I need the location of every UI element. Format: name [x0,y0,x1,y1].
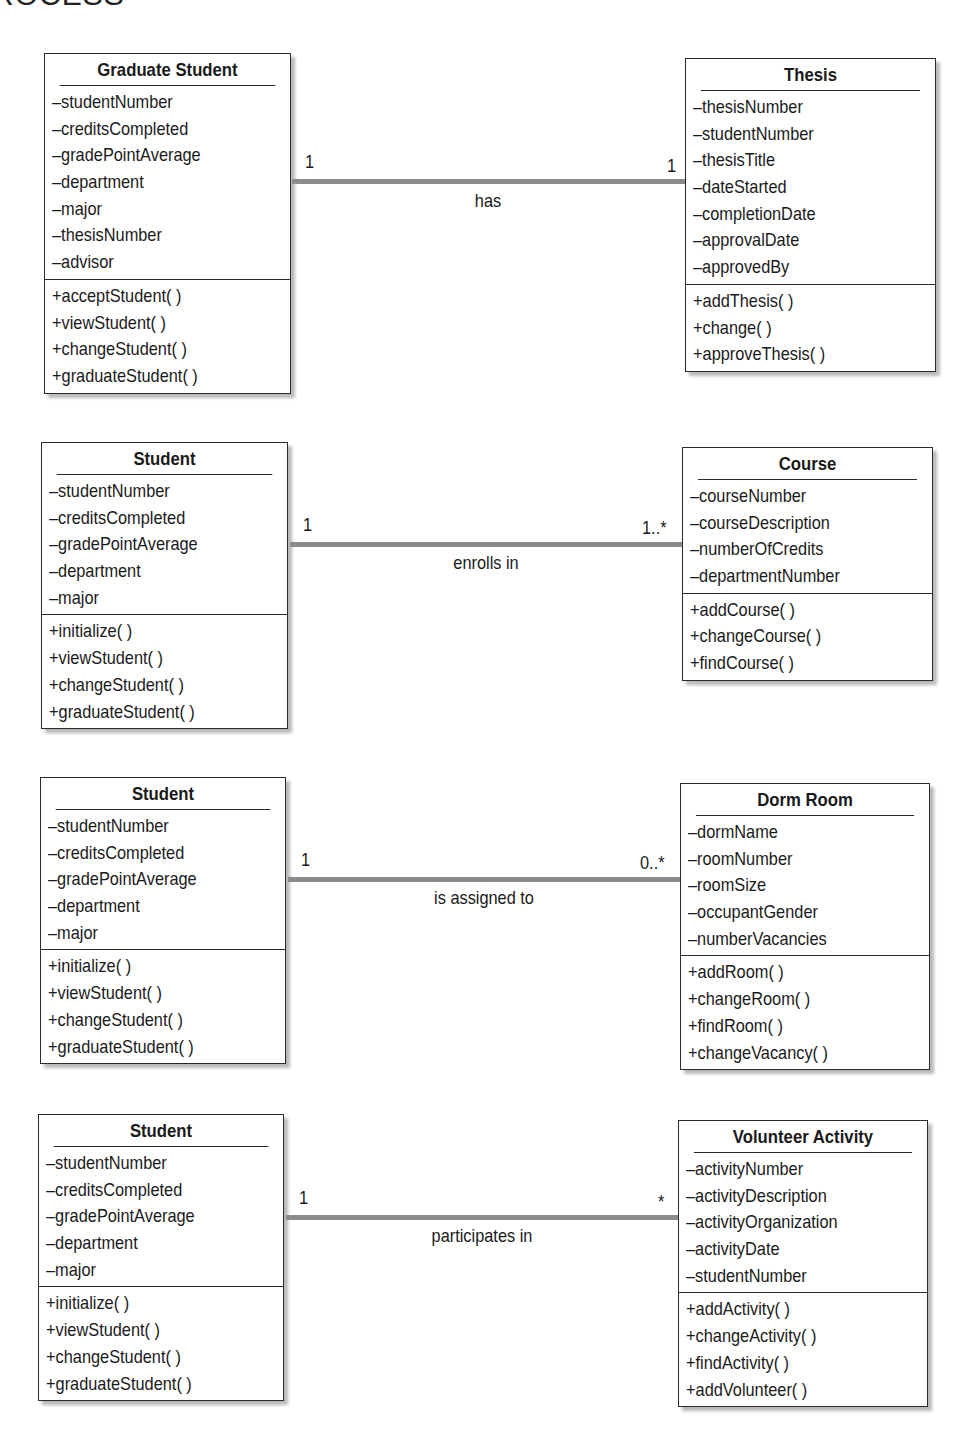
class-name: Course [698,448,917,480]
method: +viewStudent( ) [52,310,257,337]
methods-section: +initialize( ) +viewStudent( ) +changeSt… [41,950,285,1063]
class-student: Student –studentNumber –creditsCompleted… [38,1114,284,1401]
method: +graduateStudent( ) [48,1034,252,1061]
left-multiplicity: 1 [299,1187,308,1209]
attributes-section: –dormName –roomNumber –roomSize –occupan… [681,816,929,956]
attribute: –courseNumber [690,483,898,510]
attributes-section: –thesisNumber –studentNumber –thesisTitl… [686,91,935,285]
class-dorm-room: Dorm Room –dormName –roomNumber –roomSiz… [680,783,930,1070]
attribute: –courseDescription [690,510,898,537]
method: +changeStudent( ) [52,336,257,363]
attribute: –occupantGender [688,899,895,926]
association-label: participates in [396,1225,568,1247]
association-label: is assigned to [398,887,570,909]
attribute: –studentNumber [49,478,254,505]
attribute: –thesisNumber [52,222,257,249]
class-volunteer-activity: Volunteer Activity –activityNumber –acti… [678,1120,928,1407]
attribute: –department [48,893,252,920]
attribute: –activityDescription [686,1183,893,1210]
attributes-section: –activityNumber –activityDescription –ac… [679,1153,927,1293]
method: +changeStudent( ) [48,1007,252,1034]
attribute: –department [49,558,254,585]
attribute: –dateStarted [693,174,901,201]
right-multiplicity: 1..* [642,517,667,539]
attribute: –creditsCompleted [48,840,252,867]
method: +graduateStudent( ) [52,363,257,390]
class-graduate-student: Graduate Student –studentNumber –credits… [44,53,291,394]
attribute: –major [49,585,254,612]
attribute: –activityDate [686,1236,893,1263]
method: +viewStudent( ) [46,1317,250,1344]
attribute: –numberOfCredits [690,536,898,563]
method: +changeRoom( ) [688,986,895,1013]
attribute: –studentNumber [46,1150,250,1177]
attribute: –major [48,920,252,947]
attributes-section: –studentNumber –creditsCompleted –gradeP… [41,810,285,950]
attribute: –roomSize [688,872,895,899]
method: +changeStudent( ) [46,1344,250,1371]
class-name: Dorm Room [696,784,914,816]
method: +initialize( ) [49,618,254,645]
attribute: –department [52,169,257,196]
class-course: Course –courseNumber –courseDescription … [682,447,933,681]
attribute: –gradePointAverage [49,531,254,558]
class-name: Thesis [701,59,920,91]
attribute: –major [52,196,257,223]
right-multiplicity: 0..* [640,852,665,874]
method: +viewStudent( ) [49,645,254,672]
attribute: –studentNumber [48,813,252,840]
attribute: –approvalDate [693,227,901,254]
method: +findRoom( ) [688,1013,895,1040]
attribute: –numberVacancies [688,926,895,953]
association-label: has [402,190,574,212]
attribute: –thesisTitle [693,147,901,174]
attribute: –advisor [52,249,257,276]
class-name: Student [56,778,271,810]
attribute: –completionDate [693,201,901,228]
class-student: Student –studentNumber –creditsCompleted… [40,777,286,1064]
attribute: –roomNumber [688,846,895,873]
attribute: –approvedBy [693,254,901,281]
left-multiplicity: 1 [301,849,310,871]
right-multiplicity: 1 [667,155,676,177]
association-line-has [292,179,685,184]
association-line-is-assigned-to [288,877,681,882]
method: +changeVacancy( ) [688,1040,895,1067]
method: +viewStudent( ) [48,980,252,1007]
class-name: Graduate Student [60,54,276,86]
attribute: –creditsCompleted [52,116,257,143]
methods-section: +addRoom( ) +changeRoom( ) +findRoom( ) … [681,956,929,1069]
attribute: –activityOrganization [686,1209,893,1236]
attribute: –studentNumber [52,89,257,116]
method: +addThesis( ) [693,288,901,315]
method: +addVolunteer( ) [686,1377,893,1404]
method: +changeCourse( ) [690,623,898,650]
attribute: –major [46,1257,250,1284]
left-multiplicity: 1 [305,151,314,173]
attribute: –gradePointAverage [46,1203,250,1230]
class-student: Student –studentNumber –creditsCompleted… [41,442,288,729]
attribute: –department [46,1230,250,1257]
attribute: –studentNumber [686,1263,893,1290]
attributes-section: –courseNumber –courseDescription –number… [683,480,932,594]
attribute: –dormName [688,819,895,846]
method: +acceptStudent( ) [52,283,257,310]
method: +findActivity( ) [686,1350,893,1377]
attributes-section: –studentNumber –creditsCompleted –gradeP… [39,1147,283,1287]
class-name: Student [54,1115,269,1147]
attributes-section: –studentNumber –creditsCompleted –gradeP… [42,475,287,615]
method: +initialize( ) [46,1290,250,1317]
methods-section: +initialize( ) +viewStudent( ) +changeSt… [42,615,287,728]
method: +changeStudent( ) [49,672,254,699]
page-header-fragment: ROCESS [0,0,125,12]
class-name: Volunteer Activity [694,1121,912,1153]
methods-section: +addCourse( ) +changeCourse( ) +findCour… [683,594,932,680]
method: +change( ) [693,315,901,342]
method: +addCourse( ) [690,597,898,624]
attribute: –gradePointAverage [48,866,252,893]
association-line-participates-in [286,1215,679,1220]
method: +graduateStudent( ) [46,1371,250,1398]
methods-section: +acceptStudent( ) +viewStudent( ) +chang… [45,280,290,393]
methods-section: +initialize( ) +viewStudent( ) +changeSt… [39,1287,283,1400]
association-label: enrolls in [400,552,572,574]
